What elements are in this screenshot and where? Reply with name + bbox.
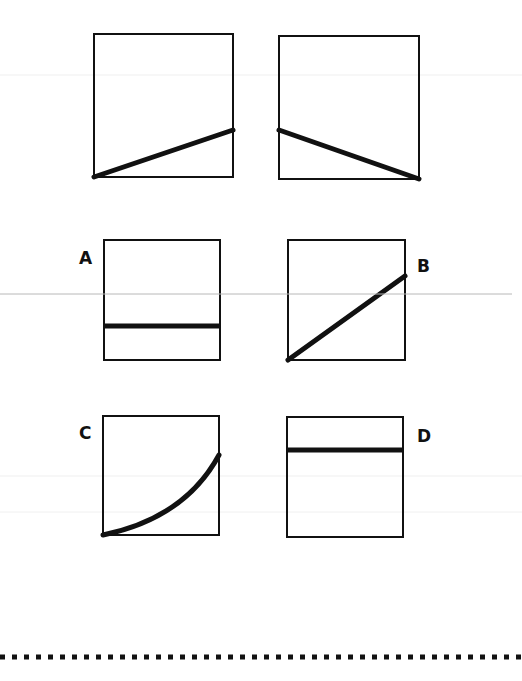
reference-graph-2 [279, 36, 419, 179]
graph-frame [287, 417, 403, 537]
option-d-label[interactable]: D [417, 428, 431, 445]
rising-line [288, 276, 405, 360]
option-a-label[interactable]: A [79, 250, 92, 267]
option-d-graph[interactable] [287, 417, 403, 537]
graph-frame [104, 240, 220, 360]
option-b-label[interactable]: B [417, 258, 430, 275]
diagram-canvas [0, 0, 522, 681]
option-c-label[interactable]: C [79, 425, 91, 442]
graph-frame [279, 36, 419, 179]
option-b-graph[interactable] [288, 240, 405, 360]
rising-line [94, 130, 233, 177]
graph-frame [288, 240, 405, 360]
option-a-graph[interactable] [104, 240, 220, 360]
falling-line [279, 130, 419, 179]
curved-line [103, 455, 219, 535]
reference-graph-1 [94, 34, 233, 177]
